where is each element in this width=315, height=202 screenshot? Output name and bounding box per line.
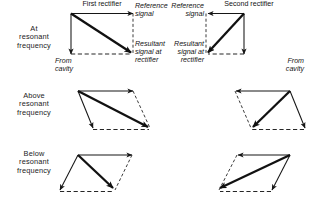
panel-at-resonance-first-rectifier xyxy=(71,14,133,55)
vector-from-cavity xyxy=(60,155,78,190)
vector-resultant-signal xyxy=(208,14,244,53)
vector-resultant-signal xyxy=(253,91,290,127)
vector-drawing-canvas xyxy=(0,0,315,202)
vector-resultant-signal xyxy=(78,155,113,188)
vector-resultant-signal xyxy=(220,155,290,188)
panel-above-resonance-second-rectifier xyxy=(235,91,305,130)
panel-at-resonance-second-rectifier xyxy=(206,14,244,55)
vector-resultant-signal xyxy=(71,14,131,53)
panel-above-resonance-first-rectifier xyxy=(78,91,150,130)
panel-below-resonance-second-rectifier xyxy=(219,155,290,192)
vector-resultant-signal xyxy=(78,91,148,127)
vector-from-cavity xyxy=(290,91,305,128)
construction-right-side xyxy=(115,155,132,190)
vector-diagram-figure: At resonant frequency Above resonant fre… xyxy=(0,0,315,202)
construction-left-side xyxy=(235,91,251,128)
panel-below-resonance-first-rectifier xyxy=(60,155,132,192)
